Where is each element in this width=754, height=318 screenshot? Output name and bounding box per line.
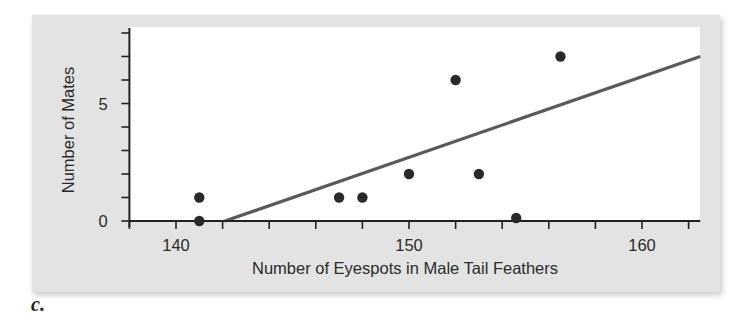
y-axis-label: Number of Mates: [59, 67, 77, 194]
data-point: [334, 192, 344, 202]
data-point: [511, 213, 521, 223]
x-tick-label: 150: [395, 236, 423, 254]
data-point: [404, 169, 414, 179]
figure-caption: c.: [31, 293, 45, 316]
x-axis-label: Number of Eyespots in Male Tail Feathers: [252, 259, 558, 277]
data-point: [450, 75, 460, 85]
x-tick-label: 140: [162, 236, 190, 254]
data-point: [357, 192, 367, 202]
data-point: [474, 169, 484, 179]
y-tick-label: 5: [98, 95, 107, 113]
y-tick-label: 0: [98, 212, 107, 230]
plot-area: [129, 27, 700, 221]
scatter-chart: 14015016005 Number of Eyespots in Male T…: [0, 0, 754, 318]
data-point: [194, 216, 204, 226]
x-tick-label: 160: [628, 236, 656, 254]
data-point: [555, 51, 565, 61]
data-point: [194, 192, 204, 202]
